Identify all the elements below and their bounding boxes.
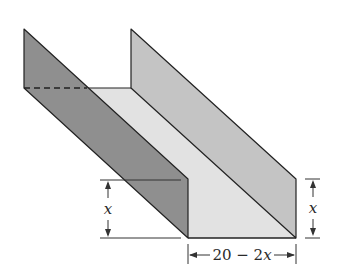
gutter-diagram: x x 20 − 2x <box>0 0 341 279</box>
base-width-label: 20 − 2x <box>212 246 272 264</box>
right-height-dimension: x <box>305 179 320 238</box>
base-width-dimension: 20 − 2x <box>188 244 296 264</box>
left-height-label: x <box>104 200 113 218</box>
right-height-label: x <box>309 199 318 217</box>
